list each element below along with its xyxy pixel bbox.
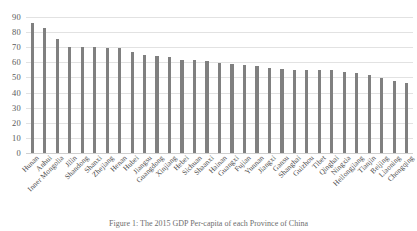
bar <box>355 73 358 153</box>
bar <box>205 61 208 153</box>
figure-caption: Figure 1: The 2015 GDP Per-capita of eac… <box>0 219 417 229</box>
bar <box>193 60 196 153</box>
bar <box>131 52 134 153</box>
bar <box>318 70 321 153</box>
y-tick-label: 60 <box>12 58 21 66</box>
bar <box>255 66 258 153</box>
bar <box>380 78 383 153</box>
bar <box>180 60 183 153</box>
bar <box>405 83 408 153</box>
y-tick-label: 40 <box>12 89 21 97</box>
bar <box>143 55 146 153</box>
bar <box>68 47 71 153</box>
bar <box>93 47 96 153</box>
bar <box>280 69 283 153</box>
y-tick-label: 20 <box>12 119 21 127</box>
bar <box>330 70 333 153</box>
bar <box>230 64 233 153</box>
y-tick-label: 10 <box>12 134 21 142</box>
bar <box>155 56 158 153</box>
bar <box>268 68 271 153</box>
figure-gdp-per-capita-chart: 0102030405060708090 HunanAnhuiInner Mong… <box>0 0 417 231</box>
bar <box>368 75 371 153</box>
y-tick-label: 0 <box>17 149 21 157</box>
bar <box>243 65 246 153</box>
bar <box>293 70 296 153</box>
y-tick-label: 30 <box>12 104 21 112</box>
y-tick-label: 90 <box>12 13 21 21</box>
y-tick-label: 70 <box>12 43 21 51</box>
x-axis-labels: HunanAnhuiInner MongoliaJilinShandongSha… <box>26 154 413 214</box>
bar <box>168 57 171 153</box>
bar <box>393 81 396 153</box>
bar <box>43 28 46 153</box>
bar <box>56 39 59 153</box>
bar <box>343 72 346 153</box>
y-tick-label: 50 <box>12 73 21 81</box>
bar <box>218 63 221 153</box>
bar <box>106 48 109 153</box>
bar-series <box>26 17 413 153</box>
bar <box>81 47 84 153</box>
bar <box>31 23 34 153</box>
bar <box>305 70 308 153</box>
plot-area <box>26 17 413 153</box>
y-tick-label: 80 <box>12 28 21 36</box>
bar <box>118 48 121 153</box>
y-axis: 0102030405060708090 <box>0 17 24 153</box>
